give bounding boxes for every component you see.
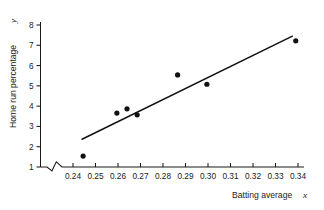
data-point — [175, 72, 180, 77]
data-point — [135, 112, 140, 117]
x-tick-label: 0.26 — [110, 171, 127, 181]
x-tick-label: 0.29 — [177, 171, 194, 181]
y-tick-label: 5 — [29, 81, 34, 91]
y-axis-variable: y — [8, 18, 18, 24]
x-tick-label: 0.34 — [290, 171, 307, 181]
x-axis-title: Batting average — [232, 190, 292, 200]
data-point — [204, 82, 209, 87]
data-point — [114, 110, 119, 115]
x-tick-label: 0.32 — [245, 171, 262, 181]
x-tick-label: 0.27 — [132, 171, 149, 181]
x-tick-label: 0.28 — [155, 171, 172, 181]
x-tick-label: 0.24 — [65, 171, 82, 181]
x-axis-variable: x — [302, 190, 308, 200]
x-axis-tick-labels: 0.240.250.260.270.280.290.300.310.320.33… — [65, 171, 307, 181]
x-axis-line — [41, 162, 305, 171]
x-tick-label: 0.30 — [200, 171, 217, 181]
data-point — [81, 153, 86, 158]
y-tick-label: 1 — [29, 162, 34, 172]
x-tick-label: 0.31 — [222, 171, 239, 181]
regression-line — [82, 36, 292, 139]
scatter-plot-figure: 12345678 0.240.250.260.270.280.290.300.3… — [0, 0, 324, 210]
y-axis-tick-labels: 12345678 — [29, 20, 34, 172]
x-tick-label: 0.33 — [267, 171, 284, 181]
y-axis-title: Home run percentage — [8, 45, 18, 128]
y-tick-label: 3 — [29, 121, 34, 131]
data-point — [124, 106, 129, 111]
y-axis-ticks — [37, 25, 41, 167]
x-axis-ticks — [73, 163, 298, 167]
y-tick-label: 4 — [29, 101, 34, 111]
y-tick-label: 6 — [29, 61, 34, 71]
y-tick-label: 7 — [29, 40, 34, 50]
x-tick-label: 0.25 — [87, 171, 104, 181]
data-points-group — [81, 38, 299, 158]
y-tick-label: 2 — [29, 142, 34, 152]
plot-canvas: 12345678 0.240.250.260.270.280.290.300.3… — [0, 0, 324, 210]
data-point — [293, 38, 298, 43]
y-tick-label: 8 — [29, 20, 34, 30]
